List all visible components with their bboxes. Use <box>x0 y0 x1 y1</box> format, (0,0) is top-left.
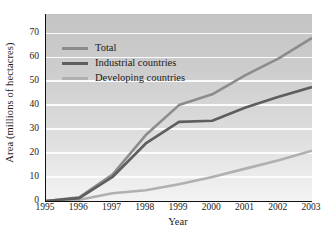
legend-color-swatch <box>62 77 88 80</box>
x-tick-label: 2001 <box>235 203 254 213</box>
legend-color-swatch <box>62 47 88 50</box>
legend-label: Total <box>95 43 116 54</box>
y-axis-tick-labels: 010203040506070 <box>16 0 42 232</box>
chart-legend: TotalIndustrial countriesDeveloping coun… <box>62 41 232 86</box>
y-tick-label: 30 <box>30 124 40 134</box>
y-axis-title-text: Area (millions of hectacres) <box>4 42 15 162</box>
x-tick-label: 1999 <box>169 203 188 213</box>
y-tick-label: 20 <box>30 148 40 158</box>
legend-color-swatch <box>62 62 88 65</box>
x-tick-label: 2003 <box>302 203 321 213</box>
chart-figure: Area (millions of hectacres) 01020304050… <box>0 0 324 232</box>
legend-item: Total <box>62 41 232 56</box>
legend-label: Industrial countries <box>95 58 176 69</box>
y-tick-label: 50 <box>30 76 40 86</box>
y-tick-label: 10 <box>30 172 40 182</box>
x-axis-tick-labels: 199519961997199819992000200120022003 <box>45 203 311 217</box>
x-tick-label: 1998 <box>135 203 154 213</box>
x-tick-label: 1996 <box>69 203 88 213</box>
y-tick-label: 40 <box>30 100 40 110</box>
legend-item: Industrial countries <box>62 56 232 71</box>
x-tick-label: 1997 <box>102 203 121 213</box>
legend-label: Developing countries <box>95 73 185 84</box>
x-axis-title: Year <box>45 216 311 227</box>
x-tick-label: 1995 <box>36 203 55 213</box>
x-tick-label: 2000 <box>202 203 221 213</box>
x-tick-label: 2002 <box>268 203 287 213</box>
y-tick-label: 70 <box>30 28 40 38</box>
legend-item: Developing countries <box>62 71 232 86</box>
y-tick-label: 60 <box>30 52 40 62</box>
